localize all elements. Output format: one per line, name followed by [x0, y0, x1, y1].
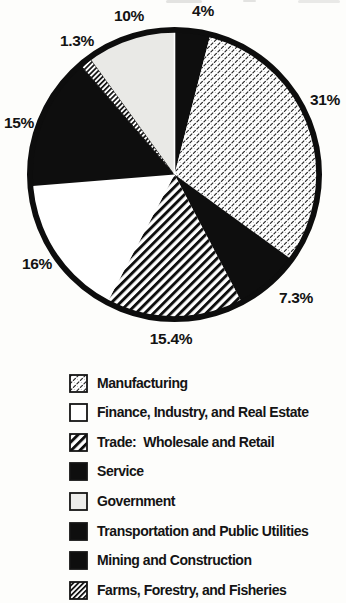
legend-label-transportation: Transportation and Public Utilities: [97, 522, 308, 541]
slice-percentage-label-manufacturing: 31%: [310, 91, 340, 109]
legend-label-service: Service: [97, 462, 144, 481]
legend-item-transportation: Transportation and Public Utilities: [69, 521, 308, 541]
slice-percentage-label-transportation: 15%: [4, 114, 34, 132]
legend-swatch-finance: [69, 403, 88, 422]
chart-container: ManufacturingFinance, Industry, and Real…: [0, 0, 346, 603]
legend-label-finance: Finance, Industry, and Real Estate: [97, 403, 309, 422]
legend-swatch-farms: [69, 581, 88, 600]
slice-percentage-label-finance: 16%: [22, 255, 52, 273]
legend-label-government: Government: [97, 492, 175, 511]
legend-label-farms: Farms, Forestry, and Fisheries: [97, 581, 286, 600]
slice-percentage-label-service: 7.3%: [279, 289, 313, 307]
legend-label-mining: Mining and Construction: [97, 551, 252, 570]
legend-item-mining: Mining and Construction: [69, 551, 252, 571]
slice-percentage-label-government: 10%: [114, 7, 144, 25]
legend-swatch-manufacturing: [69, 374, 88, 393]
legend-item-service: Service: [69, 462, 144, 482]
legend-item-government: Government: [69, 491, 175, 511]
legend-swatch-service: [69, 462, 88, 481]
legend-item-trade: Trade: Wholesale and Retail: [69, 432, 274, 452]
legend-item-manufacturing: Manufacturing: [69, 373, 188, 393]
legend-item-finance: Finance, Industry, and Real Estate: [69, 403, 309, 423]
slice-percentage-label-mining: 4%: [192, 2, 214, 20]
legend-label-manufacturing: Manufacturing: [97, 374, 188, 393]
legend-swatch-trade: [69, 433, 88, 452]
legend-swatch-government: [69, 492, 88, 511]
legend-label-trade: Trade: Wholesale and Retail: [97, 433, 274, 452]
slice-percentage-label-trade: 15.4%: [150, 330, 192, 348]
legend-swatch-transportation: [69, 522, 88, 541]
slice-percentage-label-farms: 1.3%: [60, 32, 94, 50]
legend-item-farms: Farms, Forestry, and Fisheries: [69, 580, 286, 600]
legend-swatch-mining: [69, 551, 88, 570]
